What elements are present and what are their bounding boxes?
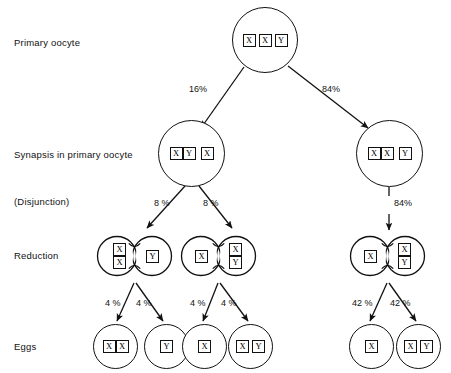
chromosome-box: Y bbox=[252, 340, 265, 353]
chromosome-box: X bbox=[113, 256, 126, 269]
chromosome-box: X bbox=[398, 243, 411, 256]
chromosome-box: X bbox=[103, 340, 116, 353]
egg-5-cell: X bbox=[349, 324, 394, 369]
synapsis-left-chromosomes: X Y X bbox=[170, 147, 214, 160]
percent-synapsis-right-to-reduction-3: 84% bbox=[394, 199, 412, 208]
egg-6-cell: X Y bbox=[396, 324, 441, 369]
chromosome-box: X bbox=[364, 250, 377, 263]
percent-reduction-2-to-egg-3: 4 % bbox=[190, 299, 206, 308]
row-label-primary-oocyte: Primary oocyte bbox=[14, 38, 80, 48]
chromosome-box: Y bbox=[183, 147, 196, 160]
reduction-1-cell: X X Y bbox=[96, 236, 172, 276]
reduction-2-right-lobe: X Y bbox=[225, 241, 246, 271]
chromosome-box: Y bbox=[420, 340, 433, 353]
chromosome-stack: X Y bbox=[398, 243, 411, 269]
egg-2-chromosomes: Y bbox=[160, 340, 173, 353]
chromosome-box: X bbox=[365, 340, 378, 353]
row-label-disjunction: (Disjunction) bbox=[14, 197, 69, 207]
synapsis-left-cell: X Y X bbox=[158, 120, 225, 187]
chromosome-box: X bbox=[195, 250, 208, 263]
percent-oocyte-to-synapsis-right: 84% bbox=[322, 85, 340, 94]
egg-4-chromosomes: X Y bbox=[236, 340, 265, 353]
reduction-1-left-lobe: X X bbox=[109, 241, 130, 271]
reduction-3-left-lobe: X bbox=[360, 249, 381, 263]
percent-reduction-3-to-egg-5: 42 % bbox=[352, 299, 373, 308]
synapsis-left-pair: X Y bbox=[170, 147, 196, 160]
primary-oocyte-chromosomes: X X Y bbox=[243, 34, 288, 47]
egg-1-chromosomes: X X bbox=[103, 340, 129, 353]
chromosome-box: X bbox=[170, 147, 183, 160]
chromosome-box: Y bbox=[229, 256, 242, 269]
chromosome-stack: X X bbox=[113, 243, 126, 269]
chromosome-box: X bbox=[113, 243, 126, 256]
reduction-3-cell: X X Y bbox=[349, 236, 425, 276]
chromosome-box: Y bbox=[275, 34, 288, 47]
reduction-2-left-lobe: X bbox=[191, 249, 212, 263]
egg-5-chromosomes: X bbox=[365, 340, 378, 353]
row-label-eggs: Eggs bbox=[14, 342, 36, 352]
chromosome-box: X bbox=[236, 340, 249, 353]
synapsis-right-chromosomes: X X Y bbox=[368, 147, 412, 160]
percent-reduction-1-to-egg-1: 4 % bbox=[105, 299, 121, 308]
chromosome-box: X bbox=[243, 34, 256, 47]
percent-oocyte-to-synapsis-left: 16% bbox=[189, 85, 207, 94]
chromosome-box: X bbox=[116, 340, 129, 353]
chromosome-box: X bbox=[198, 340, 211, 353]
chromosome-box: X bbox=[404, 340, 417, 353]
primary-oocyte-cell: X X Y bbox=[232, 7, 298, 73]
chromosome-box: X bbox=[201, 147, 214, 160]
percent-reduction-2-to-egg-4: 4 % bbox=[221, 299, 237, 308]
chromosome-box: Y bbox=[146, 250, 159, 263]
egg-6-chromosomes: X Y bbox=[404, 340, 433, 353]
row-label-reduction: Reduction bbox=[14, 251, 59, 261]
edge-oocyte-to-synapsis-left bbox=[201, 67, 244, 128]
reduction-2-cell: X X Y bbox=[180, 236, 256, 276]
percent-reduction-1-to-egg-2: 4 % bbox=[136, 299, 152, 308]
row-label-synapsis: Synapsis in primary oocyte bbox=[14, 150, 133, 160]
chromosome-box: Y bbox=[398, 256, 411, 269]
reduction-1-right-lobe: Y bbox=[142, 249, 163, 263]
egg-3-cell: X bbox=[182, 324, 227, 369]
egg-1-cell: X X bbox=[93, 324, 138, 369]
percent-synapsis-left-to-reduction-2: 8 % bbox=[203, 199, 219, 208]
chromosome-stack: X Y bbox=[229, 243, 242, 269]
edge-oocyte-to-synapsis-right bbox=[288, 66, 368, 128]
chromosome-box: Y bbox=[399, 147, 412, 160]
reduction-3-right-lobe: X Y bbox=[394, 241, 415, 271]
percent-synapsis-left-to-reduction-1: 8 % bbox=[154, 199, 170, 208]
chromosome-box: X bbox=[259, 34, 272, 47]
synapsis-right-cell: X X Y bbox=[356, 120, 423, 187]
percent-reduction-3-to-egg-6: 42 % bbox=[390, 299, 411, 308]
synapsis-right-pair: X X bbox=[368, 147, 394, 160]
chromosome-box: Y bbox=[160, 340, 173, 353]
chromosome-box: X bbox=[381, 147, 394, 160]
meiosis-nondisjunction-diagram: Primary oocyte Synapsis in primary oocyt… bbox=[0, 0, 451, 373]
chromosome-box: X bbox=[368, 147, 381, 160]
egg-3-chromosomes: X bbox=[198, 340, 211, 353]
edge-reduction-3-to-egg-5 bbox=[370, 283, 387, 321]
chromosome-box: X bbox=[229, 243, 242, 256]
egg-4-cell: X Y bbox=[228, 324, 273, 369]
